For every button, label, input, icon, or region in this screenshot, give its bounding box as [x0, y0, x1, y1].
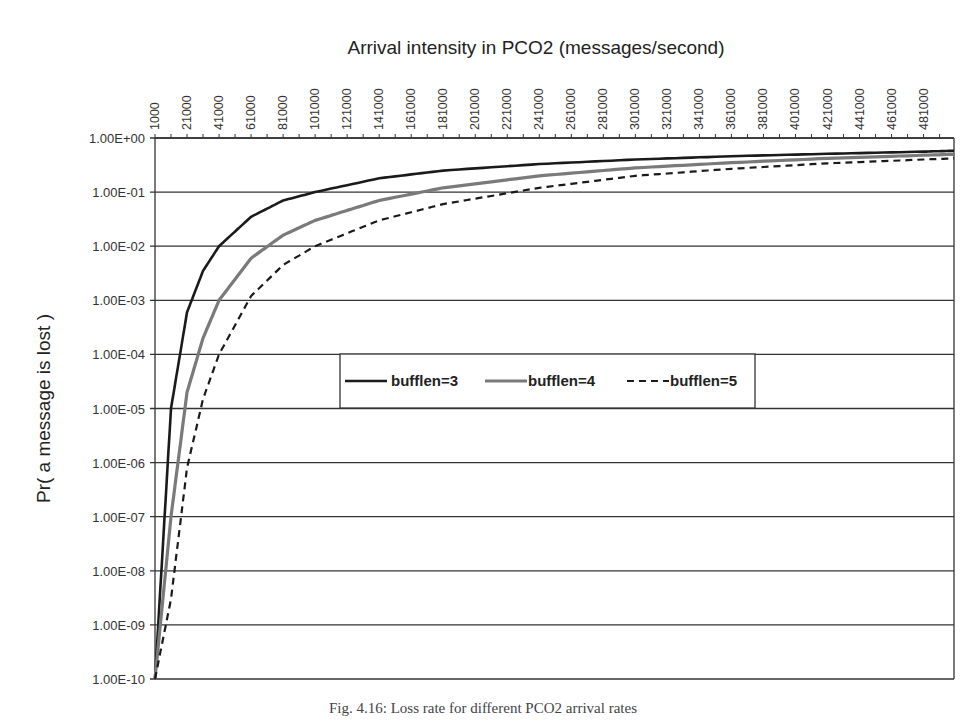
x-tick-label: 221000 [500, 88, 514, 130]
chart: 1.00E+001.00E-011.00E-021.00E-031.00E-04… [0, 0, 966, 728]
x-tick-label: 1000 [148, 102, 162, 130]
y-tick-label: 1.00E-10 [92, 672, 145, 687]
y-tick-label: 1.00E-02 [92, 239, 145, 254]
x-tick-label: 381000 [756, 88, 770, 130]
x-tick-label: 441000 [853, 88, 867, 130]
y-tick-label: 1.00E-06 [92, 456, 145, 471]
x-tick-label: 161000 [404, 88, 418, 130]
x-tick-label: 261000 [564, 88, 578, 130]
y-tick-label: 1.00E+00 [89, 131, 145, 146]
chart-title: Arrival intensity in PCO2 (messages/seco… [348, 37, 725, 58]
x-tick-label: 421000 [821, 88, 835, 130]
x-tick-label: 361000 [724, 88, 738, 130]
legend: bufflen=3bufflen=4bufflen=5 [340, 354, 755, 408]
series-line-bufflen-5 [155, 158, 954, 679]
y-tick-label: 1.00E-03 [92, 293, 145, 308]
x-tick-label: 181000 [436, 88, 450, 130]
series-line-bufflen-3 [155, 151, 954, 679]
y-axis-label: Pr( a message is lost ) [33, 314, 54, 503]
y-tick-label: 1.00E-09 [92, 618, 145, 633]
legend-label: bufflen=5 [670, 372, 737, 389]
x-tick-label: 21000 [180, 95, 194, 130]
x-tick-label: 321000 [660, 88, 674, 130]
y-tick-label: 1.00E-04 [92, 347, 145, 362]
y-tick-label: 1.00E-08 [92, 564, 145, 579]
x-tick-label: 121000 [340, 88, 354, 130]
x-tick-label: 341000 [692, 88, 706, 130]
y-tick-label: 1.00E-07 [92, 510, 145, 525]
y-tick-label: 1.00E-05 [92, 402, 145, 417]
x-tick-label: 81000 [276, 95, 290, 130]
legend-label: bufflen=3 [391, 372, 458, 389]
x-tick-label: 141000 [372, 88, 386, 130]
x-tick-label: 101000 [308, 88, 322, 130]
x-tick-label: 241000 [532, 88, 546, 130]
legend-label: bufflen=4 [528, 372, 596, 389]
x-tick-label: 61000 [244, 95, 258, 130]
figure-caption: Fig. 4.16: Loss rate for different PCO2 … [0, 700, 966, 717]
y-tick-label: 1.00E-01 [92, 185, 145, 200]
x-tick-label: 461000 [885, 88, 899, 130]
loss-probability-chart: 1.00E+001.00E-011.00E-021.00E-031.00E-04… [0, 0, 966, 728]
x-tick-label: 41000 [212, 95, 226, 130]
x-tick-label: 201000 [468, 88, 482, 130]
x-tick-label: 281000 [596, 88, 610, 130]
x-tick-label: 481000 [917, 88, 931, 130]
x-tick-label: 401000 [788, 88, 802, 130]
x-tick-label: 301000 [628, 88, 642, 130]
series-line-bufflen-4 [155, 154, 954, 679]
